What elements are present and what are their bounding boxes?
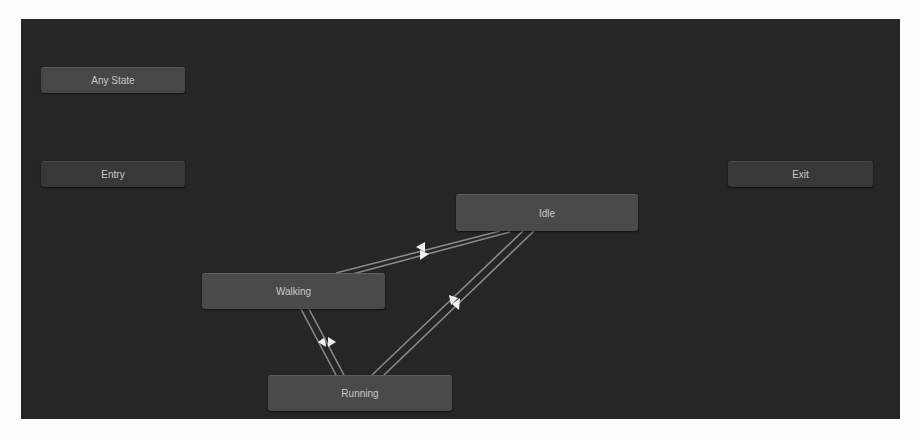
exit-node[interactable]: Exit <box>728 161 873 187</box>
state-label-walking: Walking <box>276 286 311 297</box>
any-state-node[interactable]: Any State <box>41 67 185 93</box>
entry-label: Entry <box>101 169 124 180</box>
state-label-running: Running <box>341 388 378 399</box>
entry-node[interactable]: Entry <box>41 161 185 187</box>
state-node-idle[interactable]: Idle <box>456 194 638 231</box>
state-label-idle: Idle <box>539 208 555 219</box>
state-node-walking[interactable]: Walking <box>202 273 385 309</box>
exit-label: Exit <box>792 169 809 180</box>
state-node-running[interactable]: Running <box>268 375 452 411</box>
any-state-label: Any State <box>91 75 134 86</box>
